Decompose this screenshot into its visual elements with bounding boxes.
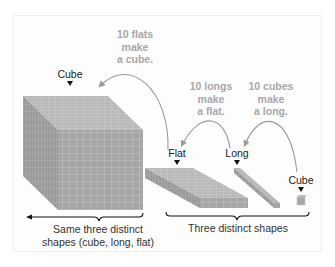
flats-make-cube-note: 10 flats make a cube. [105, 28, 165, 66]
long-label: Long [225, 147, 249, 159]
right-caption: Three distinct shapes [183, 222, 293, 235]
cubes-make-long-note: 10 cubes make a long. [242, 80, 300, 118]
cube-label: Cube [57, 68, 83, 80]
flat-pointer-icon [174, 160, 180, 165]
small-cube-label: Cube [288, 174, 314, 186]
long-pointer-icon [234, 160, 240, 165]
cube-to-long-arrow [245, 121, 297, 172]
left-caption: Same three distinct shapes (cube, long, … [38, 223, 158, 249]
left-bracket [26, 213, 143, 221]
flat-block [145, 168, 248, 208]
long-to-flat-arrow [182, 121, 230, 148]
flat-label: Flat [166, 147, 188, 159]
right-bracket [166, 212, 309, 220]
large-cube-block [23, 96, 143, 210]
small-cube-pointer-icon [298, 187, 304, 192]
longs-make-flat-note: 10 longs make a flat. [183, 80, 239, 118]
small-cube-block [297, 195, 307, 205]
cube-pointer-icon [67, 81, 73, 86]
